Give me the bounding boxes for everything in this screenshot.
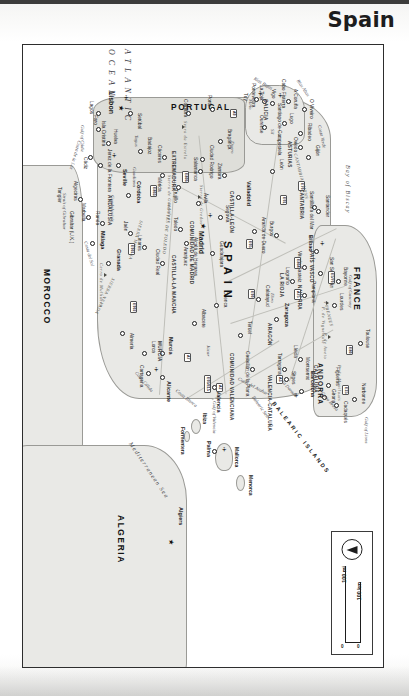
country-label-morocco: MOROCCO xyxy=(43,269,51,325)
city-dot xyxy=(250,367,255,372)
city-dot xyxy=(162,155,167,160)
city-label-lugo: Lugo xyxy=(288,113,293,124)
city-label-faro: Faro xyxy=(92,115,97,125)
city-label-lourdes: Lourdes xyxy=(338,293,343,310)
capital-marker-algiers: ★ xyxy=(168,539,175,545)
city-dot xyxy=(98,163,103,168)
river-label-mino: Miño xyxy=(248,99,253,110)
city-label-aranda: Aranda de Duero xyxy=(260,217,265,254)
landmass-algeria xyxy=(22,445,187,668)
city-label-teruel: Teruel xyxy=(246,321,251,334)
city-label-almeria: Almería xyxy=(128,333,133,350)
road-badge: E05 xyxy=(246,239,253,249)
water-label-gulf-of-valencia: Gulf of Valencia xyxy=(212,401,217,434)
city-dot xyxy=(302,107,307,112)
scale-tick-miles xyxy=(345,566,346,642)
north-arrow-icon xyxy=(347,546,358,554)
city-dot xyxy=(298,131,303,136)
city-dot xyxy=(282,367,287,372)
city-label-aranjuez: Aranjuez xyxy=(182,247,187,266)
water-label-bay-of-biscay: Bay of Biscay xyxy=(345,165,351,214)
scale-zero-left: 0 xyxy=(341,644,344,649)
city-label-jerez: Jerez de la Frontera xyxy=(106,149,111,192)
city-dot xyxy=(270,101,275,106)
city-dot xyxy=(146,371,151,376)
city-dot xyxy=(200,157,205,162)
city-dot xyxy=(86,215,91,220)
city-dot xyxy=(218,215,223,220)
city-label-tarragona: Tarragona xyxy=(276,353,281,375)
city-label-tuy: Tuy xyxy=(242,93,247,101)
city-dot xyxy=(274,233,279,238)
city-dot xyxy=(222,173,227,178)
city-dot xyxy=(299,389,304,394)
city-label-seville: Seville xyxy=(122,169,127,186)
region-label-castilla-leon: CASTILLA-LEÓN xyxy=(228,191,233,233)
capital-label-madrid: Madrid xyxy=(198,231,205,254)
city-dot xyxy=(138,149,143,154)
road-badge: E804 xyxy=(294,257,301,269)
city-label-valladolid: Valladolid xyxy=(246,181,251,206)
city-label-algeciras: Algeciras xyxy=(72,181,77,201)
city-dot xyxy=(178,227,183,232)
city-dot xyxy=(90,241,95,246)
city-label-ciudad-real: Ciudad Real xyxy=(154,249,159,275)
city-dot xyxy=(210,107,215,112)
city-label-toledo: Toledo xyxy=(172,217,177,231)
scale-baseline xyxy=(345,642,361,643)
city-label-lorca: Lorca xyxy=(150,341,155,353)
road-badge: A2 xyxy=(216,383,223,392)
city-dot xyxy=(192,321,197,326)
region-label-aragon: ARAGÓN xyxy=(266,323,271,346)
city-label-burgos: Burgos xyxy=(268,221,273,236)
scale-bar: 100 mi 100 km 0 0 xyxy=(331,531,373,655)
road-badge: E803 xyxy=(150,185,157,197)
city-dot xyxy=(116,163,121,168)
city-dot xyxy=(126,193,131,198)
road-badge: E80 xyxy=(346,345,353,355)
scale-zero-right: 0 xyxy=(357,644,360,649)
city-dot xyxy=(316,209,321,214)
city-dot xyxy=(336,279,341,284)
city-label-oviedo: Oviedo xyxy=(292,137,297,152)
page-title: Spain xyxy=(328,8,395,32)
city-dot xyxy=(78,197,83,202)
mountain-label-gredos: Sierra de Gredos xyxy=(199,185,203,225)
city-dot xyxy=(236,195,241,200)
city-dot xyxy=(214,303,219,308)
city-dot xyxy=(358,341,363,346)
airport-icon-bilbao: ✈ xyxy=(319,241,325,246)
water-label-atlantic-ocean: ATLANTIC OCEAN xyxy=(103,49,135,109)
city-dot xyxy=(290,279,295,284)
scan-edge-top xyxy=(0,0,409,4)
country-label-algeria: ALGERIA xyxy=(117,515,125,564)
road-badge: A75 xyxy=(294,289,301,300)
city-label-granada: Granada xyxy=(116,249,121,271)
city-label-santiago: Santiago de Compostela xyxy=(276,103,281,156)
city-label-lleida: Lleida xyxy=(292,345,297,358)
city-dot xyxy=(298,145,303,150)
region-label-galicia: GALICIA xyxy=(262,99,267,121)
airport-icon-palma: ✈ xyxy=(221,447,227,452)
city-dot xyxy=(212,449,217,454)
city-label-calatayud: Calatayud xyxy=(264,285,269,307)
city-dot xyxy=(160,375,165,380)
country-label-france: FRANCE xyxy=(353,267,361,312)
region-label-asturias: ASTURIAS xyxy=(286,141,291,168)
city-dot xyxy=(238,333,243,338)
mountain-label-guadalupe: Sierra de Guadalupe xyxy=(167,175,171,223)
region-label-valencia-cataluna: VALENCIA-CATALUÑA xyxy=(266,375,271,431)
region-label-cataluna: CATALUÑA xyxy=(312,365,317,393)
city-dot xyxy=(352,397,357,402)
city-label-santander: Santander xyxy=(324,195,329,217)
mountain-peak-icon xyxy=(198,195,201,199)
city-label-toulouse: Toulouse xyxy=(364,329,369,348)
city-dot xyxy=(210,251,215,256)
city-label-porto: Porto xyxy=(206,95,211,106)
city-dot xyxy=(302,265,307,270)
city-label-montserrat: Montserrat xyxy=(304,357,309,380)
atlas-page: Spain xyxy=(0,0,409,696)
city-dot xyxy=(274,317,279,322)
city-label-ciudad-rodrigo: Ciudad Rodrigo xyxy=(208,145,213,178)
map-frame[interactable]: SPAIN PORTUGAL FRANCE ANDORRA ALGERIA MO… xyxy=(22,44,384,668)
